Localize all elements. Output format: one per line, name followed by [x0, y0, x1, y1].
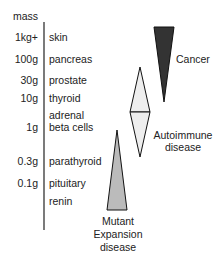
autoimmune-label-line2: disease: [150, 141, 216, 153]
organ-label: renin: [49, 195, 72, 207]
organ-label: adrenal: [49, 109, 84, 121]
cancer-triangle: [154, 27, 174, 102]
organ-label: skin: [49, 31, 68, 43]
axis-header: mass: [13, 10, 38, 22]
organ-label: parathyroid: [49, 155, 102, 167]
organ-label: thyroid: [49, 92, 81, 104]
organ-label: prostate: [49, 74, 87, 86]
mutant-label-line2: Expansion: [88, 228, 148, 240]
autoimmune-upper-triangle: [130, 67, 150, 112]
autoimmune-label-line1: Autoimmune: [150, 129, 216, 141]
mutant-label-line3: disease: [88, 241, 148, 253]
mass-label: 0.3g: [0, 155, 38, 167]
cancer-label: Cancer: [176, 53, 210, 65]
mass-label: 30g: [0, 74, 38, 86]
mutant-expansion-triangle: [107, 130, 127, 210]
mass-label: 1g: [0, 121, 38, 133]
autoimmune-lower-triangle: [130, 112, 150, 157]
mass-label: 0.1g: [0, 177, 38, 189]
organ-label: pituitary: [49, 177, 86, 189]
mass-label: 1kg+: [0, 31, 38, 43]
mutant-label-line1: Mutant: [88, 215, 148, 227]
organ-label: pancreas: [49, 53, 92, 65]
mass-label: 10g: [0, 92, 38, 104]
mass-label: 100g: [0, 53, 38, 65]
organ-label: beta cells: [49, 121, 93, 133]
